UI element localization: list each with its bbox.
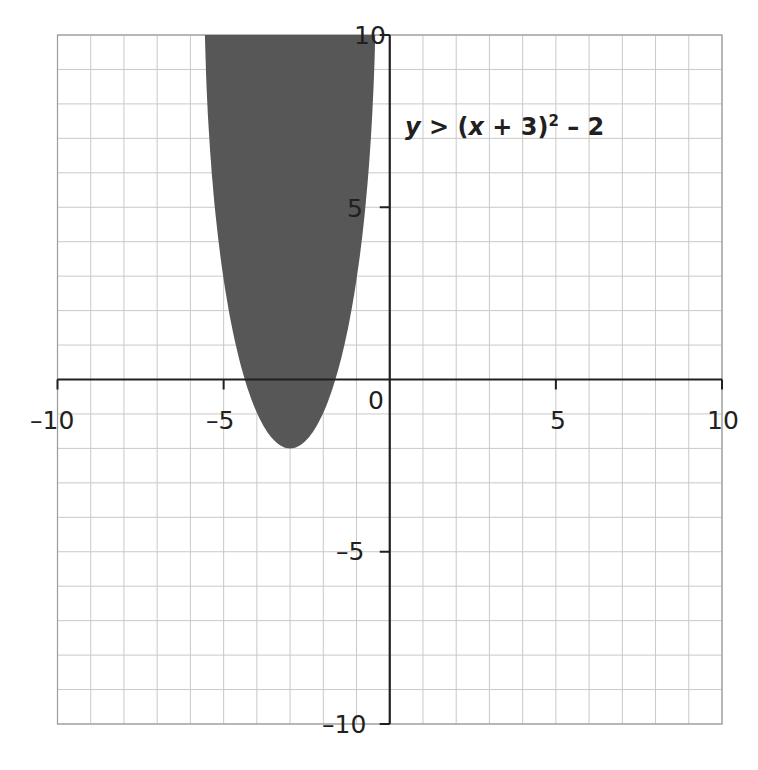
equation-variable-y: y [405,113,421,141]
y-tick-label-5: 5 [347,196,363,221]
x-tick-label-neg10: –10 [30,408,74,433]
equation-exponent: 2 [548,112,558,130]
coordinate-plane [0,0,758,770]
y-tick-label-neg5: –5 [336,539,364,564]
inequality-label: y > (x + 3)2 – 2 [405,112,604,141]
y-tick-label-neg10: –10 [322,712,366,737]
equation-part: – 2 [559,113,604,141]
origin-label: 0 [368,388,384,413]
x-tick-label-5: 5 [550,408,566,433]
shaded-region [205,35,375,448]
x-tick-label-10: 10 [707,408,739,433]
x-tick-label-neg5: –5 [206,408,234,433]
y-tick-label-10: 10 [354,23,386,48]
equation-part: > ( [421,113,469,141]
equation-variable-x: x [468,113,483,141]
equation-part: + 3) [484,113,549,141]
